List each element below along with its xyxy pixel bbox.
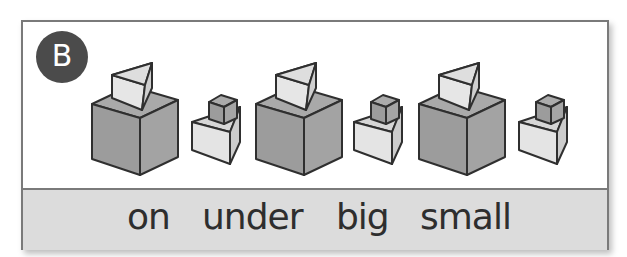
picture-area: B bbox=[23, 22, 607, 188]
group-1-big-cube-with-wedge bbox=[92, 63, 178, 175]
group-1-small-wedge-with-cube bbox=[192, 95, 240, 164]
word-under: under bbox=[202, 195, 302, 239]
word-small: small bbox=[420, 195, 511, 239]
shapes-illustration bbox=[23, 22, 607, 188]
badge-label: B bbox=[52, 41, 73, 71]
group-2-big-cube-with-wedge bbox=[256, 63, 342, 175]
group-3-big-cube-with-wedge bbox=[419, 63, 505, 175]
word-big: big bbox=[336, 195, 389, 239]
section-badge: B bbox=[36, 31, 88, 83]
group-3-small-wedge-with-cube bbox=[519, 95, 567, 164]
word-strip: on under big small bbox=[23, 188, 607, 250]
group-2-small-wedge-with-cube bbox=[354, 95, 402, 164]
vocabulary-card: B on under big small bbox=[21, 20, 609, 250]
word-on: on bbox=[127, 195, 170, 239]
